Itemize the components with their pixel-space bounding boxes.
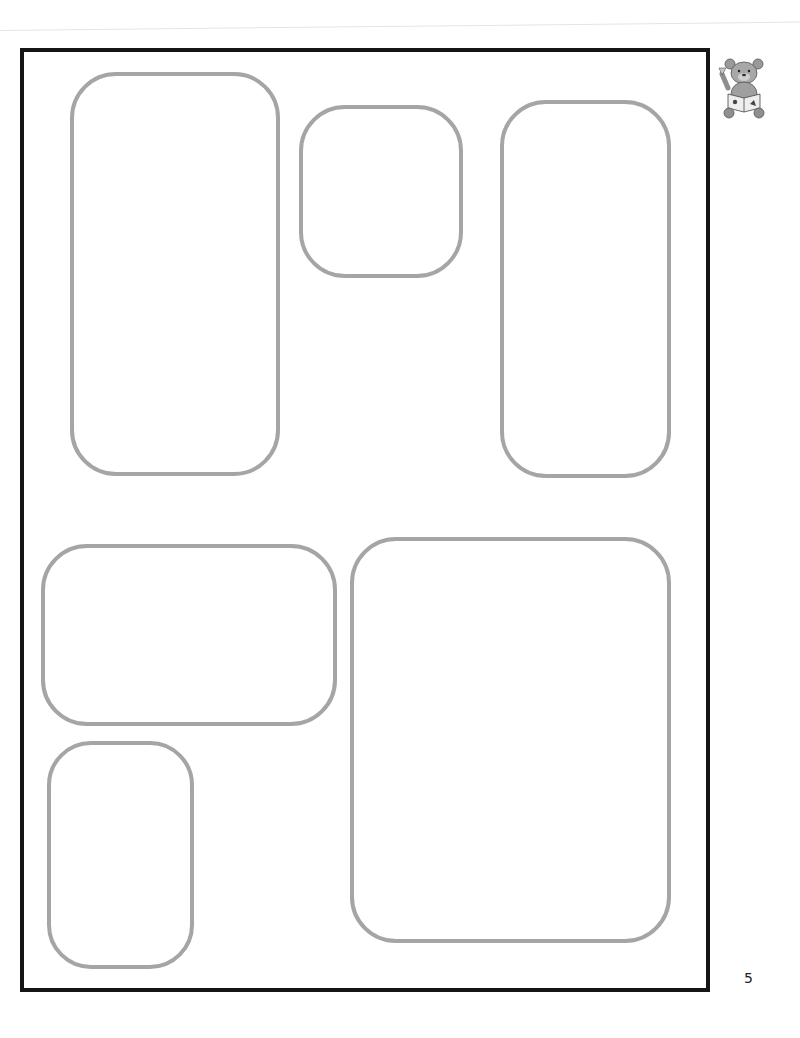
- drawing-panel-6: [47, 741, 194, 969]
- drawing-panel-4: [41, 544, 337, 726]
- scan-edge-line: [0, 22, 800, 31]
- teddy-bear-reading-book-icon: [718, 56, 770, 120]
- page-number: 5: [744, 970, 753, 986]
- drawing-panel-2: [299, 105, 463, 278]
- drawing-panel-5: [350, 537, 671, 943]
- drawing-panel-3: [500, 100, 671, 478]
- drawing-panel-1: [70, 72, 280, 476]
